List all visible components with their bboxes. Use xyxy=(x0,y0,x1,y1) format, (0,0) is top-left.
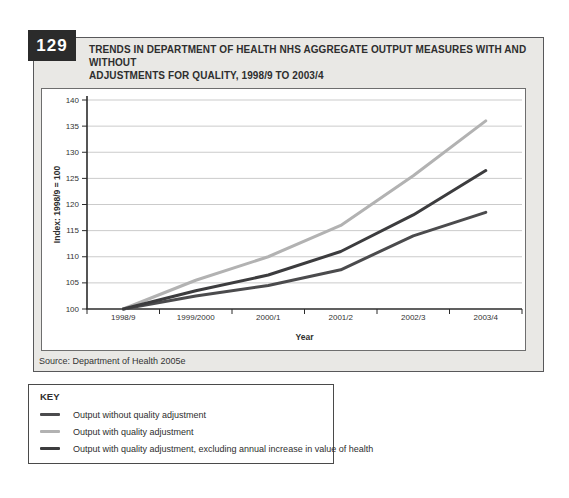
source-note: Source: Department of Health 2005e xyxy=(39,356,186,366)
legend-item-without-quality-adjustment: Output without quality adjustment xyxy=(40,406,333,423)
svg-text:Index: 1998/9 = 100: Index: 1998/9 = 100 xyxy=(52,166,62,244)
page: { "figure": { "number": "129", "title_li… xyxy=(0,0,569,498)
svg-text:110: 110 xyxy=(66,252,79,261)
svg-text:115: 115 xyxy=(66,226,79,235)
svg-text:2002/3: 2002/3 xyxy=(401,313,426,322)
line-swatch-icon xyxy=(40,447,60,450)
legend-item-with-quality-adjustment-excluding-value-of-health: Output with quality adjustment, excludin… xyxy=(40,440,333,457)
legend-label: Output with quality adjustment, excludin… xyxy=(73,444,373,454)
figure-title-line1: TRENDS IN DEPARTMENT OF HEALTH NHS AGGRE… xyxy=(89,43,541,69)
svg-text:1999/2000: 1999/2000 xyxy=(177,313,215,322)
legend-label: Output with quality adjustment xyxy=(73,427,194,437)
chart-area: 1001051101151201251301351401998/91999/20… xyxy=(41,88,526,351)
figure-title-line2: ADJUSTMENTS FOR QUALITY, 1998/9 TO 2003/… xyxy=(89,69,541,82)
svg-text:125: 125 xyxy=(66,174,80,183)
legend-box: KEY Output without quality adjustment Ou… xyxy=(28,384,334,464)
svg-text:135: 135 xyxy=(66,122,80,131)
svg-text:120: 120 xyxy=(66,200,80,209)
line-swatch-icon xyxy=(40,413,60,416)
svg-text:2000/1: 2000/1 xyxy=(256,313,281,322)
svg-text:2003/4: 2003/4 xyxy=(474,313,499,322)
figure-number-badge: 129 xyxy=(28,30,76,61)
svg-text:100: 100 xyxy=(66,305,80,314)
line-swatch-icon xyxy=(40,430,60,433)
svg-text:2001/2: 2001/2 xyxy=(329,313,354,322)
svg-text:Year: Year xyxy=(296,332,315,342)
svg-text:130: 130 xyxy=(66,148,80,157)
legend-item-with-quality-adjustment: Output with quality adjustment xyxy=(40,423,333,440)
figure-title: TRENDS IN DEPARTMENT OF HEALTH NHS AGGRE… xyxy=(89,43,541,82)
figure-panel: 129 TRENDS IN DEPARTMENT OF HEALTH NHS A… xyxy=(33,37,544,372)
line-chart: 1001051101151201251301351401998/91999/20… xyxy=(42,89,525,350)
svg-text:1998/9: 1998/9 xyxy=(111,313,136,322)
svg-text:140: 140 xyxy=(66,96,80,105)
legend-title: KEY xyxy=(40,391,333,402)
legend-label: Output without quality adjustment xyxy=(73,410,206,420)
svg-text:105: 105 xyxy=(66,278,80,287)
